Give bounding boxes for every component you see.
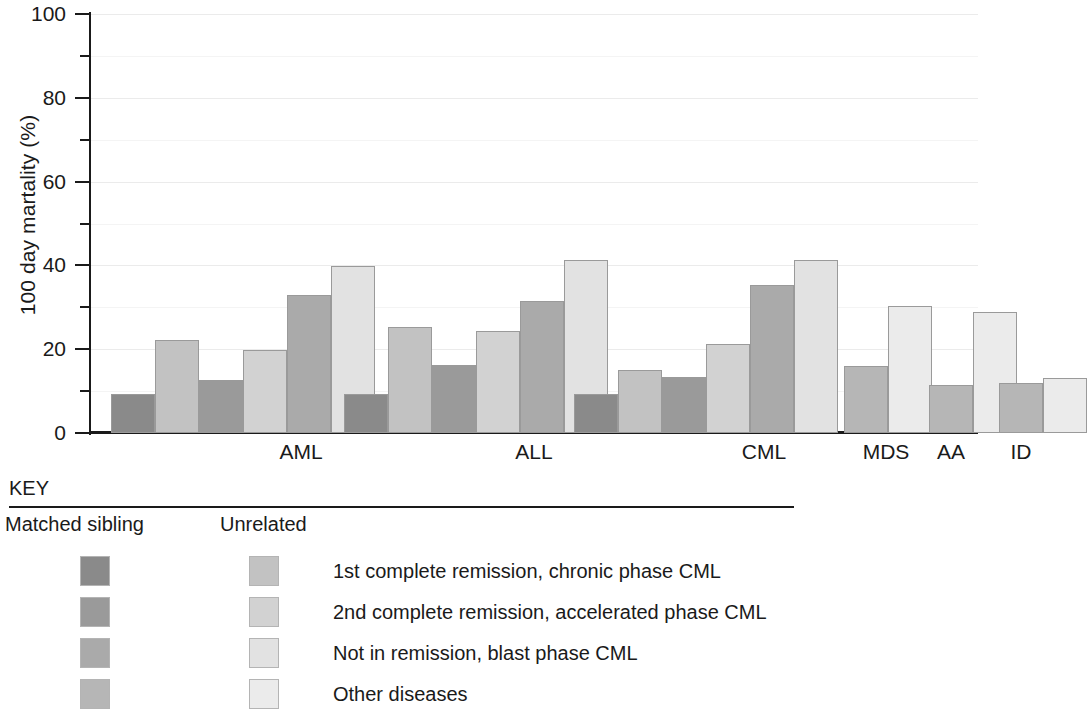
key-swatch-matched-sibling: [80, 638, 110, 668]
bar: [111, 394, 155, 433]
y-tick-major: [75, 13, 90, 15]
y-tick-label: 40: [6, 254, 66, 275]
bar: [520, 301, 564, 433]
bar: [618, 370, 662, 433]
key-column-header-unrelated: Unrelated: [220, 513, 307, 536]
y-tick-major: [75, 97, 90, 99]
x-axis-category-label: AA: [937, 440, 965, 464]
bar: [929, 385, 973, 433]
bar-chart-figure: 100 day martality (%) 020406080100 AMLAL…: [0, 0, 986, 470]
x-axis-category-label: AML: [279, 440, 322, 464]
bar: [844, 366, 888, 433]
y-tick-major: [75, 264, 90, 266]
bar: [344, 394, 388, 433]
bar: [750, 285, 794, 433]
key-row-label: Not in remission, blast phase CML: [333, 642, 638, 665]
bar: [794, 260, 838, 433]
key-divider: [9, 506, 794, 508]
y-tick-label: 60: [6, 171, 66, 192]
key-swatch-unrelated: [249, 556, 279, 586]
y-axis-title: 100 day martality (%): [16, 75, 40, 355]
chart-key: KEY Matched sibling Unrelated 1st comple…: [0, 472, 986, 708]
y-tick-label: 0: [6, 422, 66, 443]
y-tick-minor: [80, 306, 90, 308]
key-swatch-matched-sibling: [80, 597, 110, 627]
x-axis-category-label: ID: [1011, 440, 1032, 464]
key-swatch-unrelated: [249, 679, 279, 709]
key-swatch-unrelated: [249, 638, 279, 668]
y-tick-minor: [80, 223, 90, 225]
y-tick-major: [75, 181, 90, 183]
key-column-header-matched-sibling: Matched sibling: [5, 513, 144, 536]
key-row-label: Other diseases: [333, 683, 468, 706]
bar: [888, 306, 932, 433]
bar: [1043, 378, 1087, 433]
y-tick-minor: [80, 139, 90, 141]
bar: [706, 344, 750, 433]
bar: [476, 331, 520, 433]
key-row-label: 1st complete remission, chronic phase CM…: [333, 560, 721, 583]
x-axis-category-label: CML: [742, 440, 786, 464]
bar: [199, 380, 243, 433]
bar: [999, 383, 1043, 433]
key-swatch-unrelated: [249, 597, 279, 627]
x-axis-category-label: ALL: [515, 440, 552, 464]
bar: [388, 327, 432, 433]
plot-area: [91, 14, 978, 433]
y-tick-label: 20: [6, 338, 66, 359]
y-tick-minor: [80, 390, 90, 392]
y-tick-label: 100: [6, 3, 66, 24]
key-swatch-matched-sibling: [80, 556, 110, 586]
x-axis-category-label: MDS: [863, 440, 910, 464]
bar: [155, 340, 199, 433]
key-swatch-matched-sibling: [80, 679, 110, 709]
y-tick-minor: [80, 55, 90, 57]
bar: [287, 295, 331, 433]
y-tick-label: 80: [6, 87, 66, 108]
key-title: KEY: [9, 477, 49, 500]
y-tick-major: [75, 348, 90, 350]
bar: [662, 377, 706, 433]
bar: [574, 394, 618, 433]
bar: [243, 350, 287, 433]
y-tick-major: [75, 432, 90, 434]
key-row-label: 2nd complete remission, accelerated phas…: [333, 601, 767, 624]
bar: [432, 365, 476, 433]
